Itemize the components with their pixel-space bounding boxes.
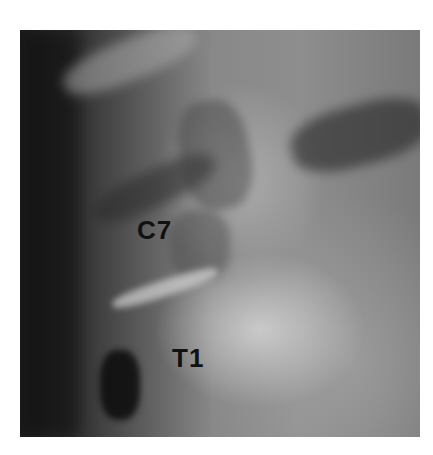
vertebra-label-c7: C7	[137, 215, 172, 246]
endplate-highlight	[110, 263, 220, 312]
posterior-shadow	[285, 88, 420, 182]
xray-image	[20, 30, 420, 437]
vertebra-label-t1: T1	[172, 343, 204, 374]
facet-shadow	[171, 95, 259, 215]
trachea-air-shadow	[100, 350, 140, 420]
